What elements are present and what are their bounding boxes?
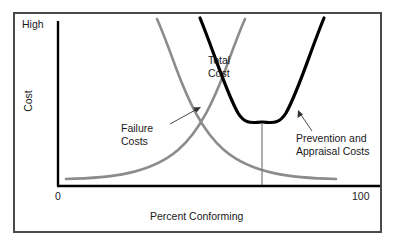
plot-background (15, 14, 380, 231)
x-axis-min-tick-label: 0 (55, 190, 61, 202)
x-axis-max-tick-label: 100 (352, 190, 370, 202)
total-cost-label-line2: Cost (208, 67, 230, 80)
prevention-appraisal-costs-label: Prevention and Appraisal Costs (296, 132, 370, 158)
total-cost-label-line1: Total (208, 54, 230, 67)
y-axis-title: Cost (22, 71, 34, 131)
cost-of-quality-figure: High Cost 0 100 Percent Conforming Total… (0, 0, 402, 246)
y-axis-high-label: High (22, 18, 44, 30)
prevention-appraisal-label-line2: Appraisal Costs (296, 145, 370, 158)
failure-costs-label-line1: Failure (121, 122, 153, 135)
prevention-appraisal-label-line1: Prevention and (296, 132, 370, 145)
failure-costs-label: Failure Costs (121, 122, 153, 148)
total-cost-label: Total Cost (208, 54, 230, 80)
x-axis-title: Percent Conforming (150, 210, 243, 222)
failure-costs-label-line2: Costs (121, 135, 153, 148)
